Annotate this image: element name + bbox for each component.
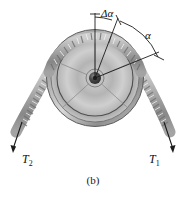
label-delta-alpha: Δα bbox=[101, 7, 113, 19]
tension-left-subscript: 2 bbox=[29, 159, 33, 168]
tension-right-subscript: 1 bbox=[156, 159, 160, 168]
figure-caption: (b) bbox=[0, 174, 186, 186]
label-tension-left: T2 bbox=[22, 152, 33, 168]
tension-right-symbol: T bbox=[149, 152, 156, 166]
label-tension-right: T1 bbox=[149, 152, 160, 168]
label-alpha: α bbox=[145, 29, 151, 41]
tension-left-symbol: T bbox=[22, 152, 29, 166]
